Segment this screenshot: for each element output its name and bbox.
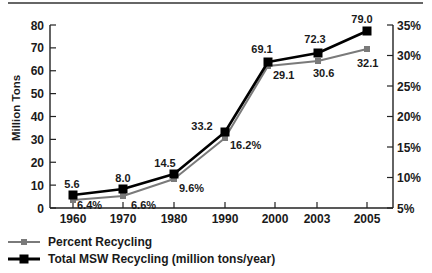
left-y-tick-label: 20: [31, 156, 45, 170]
legend-label: Percent Recycling: [48, 235, 152, 249]
data-label: 69.1: [251, 43, 272, 55]
data-labels: 6.4%6.6%9.6%16.2%29.130.632.15.68.014.53…: [64, 13, 378, 211]
left-y-tick-label: 60: [31, 64, 45, 78]
data-label: 9.6%: [179, 182, 204, 194]
y-axis-title: Million Tons: [10, 75, 22, 141]
grey-square-marker-icon: [315, 58, 321, 64]
left-y-tick-label: 50: [31, 87, 45, 101]
right-y-tick-label: 5%: [397, 202, 415, 216]
right-y-tick-label: 25%: [397, 80, 421, 94]
black-square-marker-icon: [20, 255, 29, 264]
data-label: 33.2: [191, 120, 212, 132]
legend-swatch-total: [8, 251, 40, 267]
series-line: [73, 31, 367, 195]
grey-square-marker-icon: [21, 239, 27, 245]
x-tick-label: 1980: [161, 212, 188, 226]
black-square-marker-icon: [264, 58, 273, 67]
x-tick-label: 2003: [304, 212, 331, 226]
black-square-marker-icon: [221, 128, 230, 137]
legend-label: Total MSW Recycling (million tons/year): [48, 252, 275, 266]
left-y-tick-label: 80: [31, 19, 45, 33]
right-y-tick-label: 20%: [397, 110, 421, 124]
x-tick-label: 2000: [262, 212, 289, 226]
grey-square-marker-icon: [120, 193, 126, 199]
x-tick-label: 1990: [212, 212, 239, 226]
black-square-marker-icon: [119, 185, 128, 194]
data-label: 6.6%: [131, 199, 156, 211]
legend-item-percent-recycling: Percent Recycling: [8, 234, 152, 250]
legend-item-total-msw: Total MSW Recycling (million tons/year): [8, 251, 275, 267]
left-y-tick-label: 10: [31, 179, 45, 193]
series-layer: [69, 27, 372, 204]
data-label: 30.6: [313, 67, 334, 79]
data-label: 32.1: [357, 57, 378, 69]
left-y-tick-label: 30: [31, 133, 45, 147]
chart: 010203040506070805%10%15%20%25%30%35%196…: [0, 0, 432, 273]
data-label: 29.1: [273, 69, 294, 81]
data-label: 8.0: [115, 172, 130, 184]
series-total-msw-recycling: [69, 27, 372, 200]
data-label: 5.6: [64, 178, 79, 190]
data-label: 72.3: [304, 33, 325, 45]
right-y-tick-label: 15%: [397, 141, 421, 155]
left-y-tick-label: 70: [31, 41, 45, 55]
right-y-tick-label: 10%: [397, 171, 421, 185]
legend-swatch-percent: [8, 234, 40, 250]
x-tick-label: 2005: [354, 212, 381, 226]
left-y-tick-label: 40: [31, 110, 45, 124]
right-y-tick-label: 35%: [397, 19, 421, 33]
x-tick-label: 1960: [60, 212, 87, 226]
right-y-tick-label: 30%: [397, 49, 421, 63]
data-label: 6.4%: [77, 199, 102, 211]
data-label: 16.2%: [230, 139, 261, 151]
black-square-marker-icon: [363, 27, 372, 36]
black-square-marker-icon: [170, 170, 179, 179]
black-square-marker-icon: [314, 49, 323, 58]
data-label: 14.5: [154, 157, 175, 169]
left-y-tick-label: 0: [37, 202, 44, 216]
grey-square-marker-icon: [364, 46, 370, 52]
data-label: 79.0: [351, 13, 372, 25]
x-tick-label: 1970: [110, 212, 137, 226]
